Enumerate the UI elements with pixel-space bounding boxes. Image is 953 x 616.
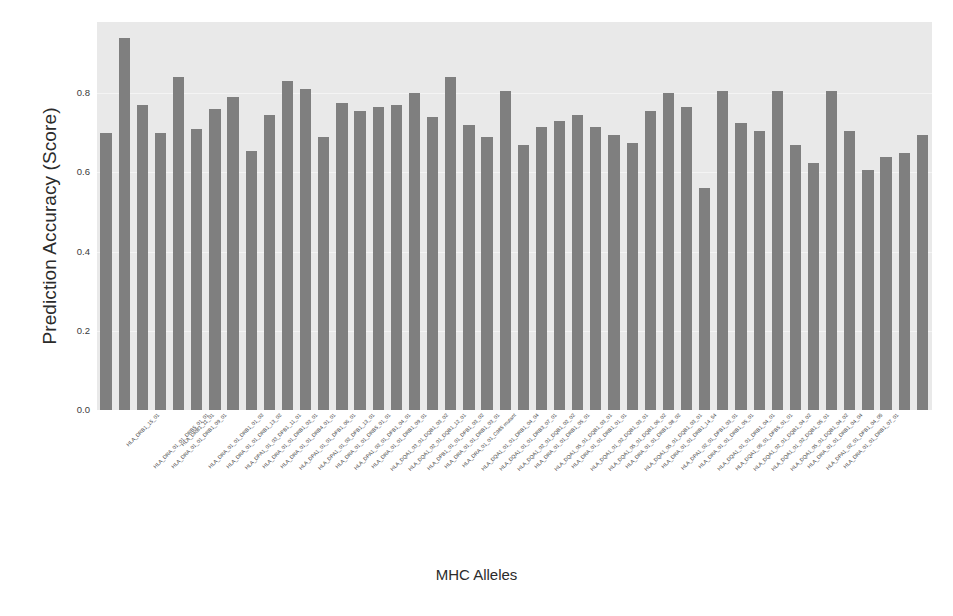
bar xyxy=(282,81,293,410)
bar xyxy=(155,133,166,410)
bar xyxy=(500,91,511,410)
bar xyxy=(844,131,855,410)
bar xyxy=(735,123,746,410)
bar xyxy=(862,170,873,410)
bar xyxy=(663,93,674,410)
bar xyxy=(100,133,111,410)
x-axis-tick-labels: HLA_DRB1_15_01HLA_DRA_01_01_DRB5_01_01HL… xyxy=(97,412,932,542)
bar xyxy=(899,153,910,410)
bar xyxy=(518,145,529,410)
bar xyxy=(880,157,891,410)
y-tick-label: 0.2 xyxy=(50,325,90,336)
bar xyxy=(427,117,438,410)
bar xyxy=(627,143,638,410)
bar xyxy=(536,127,547,410)
bar xyxy=(917,135,928,410)
bar xyxy=(354,111,365,410)
y-tick-label: 0.4 xyxy=(50,246,90,257)
bar xyxy=(246,151,257,410)
bar xyxy=(119,38,130,410)
bar xyxy=(137,105,148,410)
bar xyxy=(409,93,420,410)
bar xyxy=(826,91,837,410)
bar-series xyxy=(97,22,932,410)
bar xyxy=(191,129,202,410)
bar xyxy=(318,137,329,410)
y-tick-label: 0.6 xyxy=(50,166,90,177)
bar xyxy=(590,127,601,410)
x-tick-label: HLA_DRB1_15_01 xyxy=(125,412,160,447)
bar xyxy=(808,163,819,410)
bar xyxy=(264,115,275,410)
bar xyxy=(336,103,347,410)
bar xyxy=(754,131,765,410)
y-axis-tick-labels: 0.00.20.40.60.8 xyxy=(46,0,90,616)
bar xyxy=(391,105,402,410)
bar xyxy=(717,91,728,410)
y-tick-label: 0.8 xyxy=(50,87,90,98)
bar-chart-figure: Prediction Accuracy (Score) 0.00.20.40.6… xyxy=(0,0,953,616)
bar xyxy=(445,77,456,410)
x-axis-title: MHC Alleles xyxy=(0,566,953,583)
bar xyxy=(554,121,565,410)
bar xyxy=(173,77,184,410)
bar xyxy=(645,111,656,410)
bar xyxy=(373,107,384,410)
bar xyxy=(481,137,492,410)
bar xyxy=(572,115,583,410)
bar xyxy=(463,125,474,410)
y-tick-label: 0.0 xyxy=(50,404,90,415)
bar xyxy=(699,188,710,410)
bar xyxy=(790,145,801,410)
bar xyxy=(300,89,311,410)
bar xyxy=(681,107,692,410)
bar xyxy=(772,91,783,410)
bar xyxy=(608,135,619,410)
bar xyxy=(209,109,220,410)
plot-area xyxy=(97,22,932,410)
bar xyxy=(227,97,238,410)
